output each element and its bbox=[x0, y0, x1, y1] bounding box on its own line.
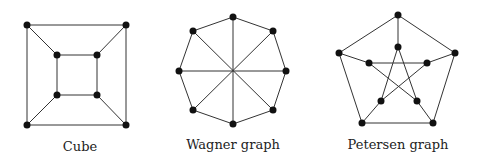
petersen-graph: Petersen graph bbox=[336, 12, 459, 153]
wagner-graph: Wagner graph bbox=[176, 14, 290, 153]
graph-edge bbox=[27, 95, 57, 125]
graph-node bbox=[176, 68, 183, 75]
graph-node bbox=[54, 92, 61, 99]
graph-edge bbox=[339, 53, 369, 63]
graph-edge bbox=[193, 17, 233, 31]
graph-edge bbox=[273, 31, 286, 71]
graph-node bbox=[452, 50, 459, 57]
graph-node bbox=[378, 98, 385, 105]
graph-edge bbox=[179, 31, 193, 71]
graph-node bbox=[190, 107, 197, 114]
graph-edge bbox=[362, 101, 381, 123]
graph-edge bbox=[427, 53, 455, 63]
graph-edge bbox=[433, 53, 455, 123]
graph-node bbox=[24, 22, 31, 29]
graph-edge bbox=[97, 25, 126, 55]
graph-node bbox=[336, 50, 343, 57]
graph-edge bbox=[193, 110, 233, 124]
graph-edge bbox=[27, 25, 57, 55]
graph-node bbox=[424, 60, 431, 67]
graph-node bbox=[94, 92, 101, 99]
graph-node bbox=[395, 12, 402, 19]
graph-node bbox=[430, 120, 437, 127]
graph-edge bbox=[97, 95, 126, 125]
graph-edge bbox=[233, 17, 273, 31]
cube-graph: Cube bbox=[24, 22, 130, 155]
graph-edge bbox=[398, 15, 455, 53]
graph-edge bbox=[233, 110, 273, 124]
graph-node bbox=[230, 121, 237, 128]
graph-node bbox=[270, 107, 277, 114]
graph-node bbox=[123, 22, 130, 29]
graph-edge bbox=[273, 71, 286, 110]
graph-edge bbox=[179, 71, 193, 110]
graph-figure: Cube Wagner graph Petersen graph bbox=[0, 0, 482, 160]
petersen-graph-label: Petersen graph bbox=[348, 137, 449, 152]
graph-edge bbox=[339, 53, 362, 123]
graph-node bbox=[24, 122, 31, 129]
graph-edge bbox=[417, 101, 433, 123]
cube-label: Cube bbox=[63, 139, 98, 154]
graph-node bbox=[270, 28, 277, 35]
graph-edge bbox=[381, 63, 427, 101]
wagner-graph-label: Wagner graph bbox=[186, 137, 280, 152]
graph-node bbox=[359, 120, 366, 127]
graph-node bbox=[230, 14, 237, 21]
graph-node bbox=[395, 44, 402, 51]
graph-node bbox=[190, 28, 197, 35]
graph-node bbox=[54, 52, 61, 59]
graph-node bbox=[94, 52, 101, 59]
graph-node bbox=[414, 98, 421, 105]
graph-edge bbox=[339, 15, 398, 53]
graph-node bbox=[123, 122, 130, 129]
graph-node bbox=[366, 60, 373, 67]
graph-node bbox=[283, 68, 290, 75]
